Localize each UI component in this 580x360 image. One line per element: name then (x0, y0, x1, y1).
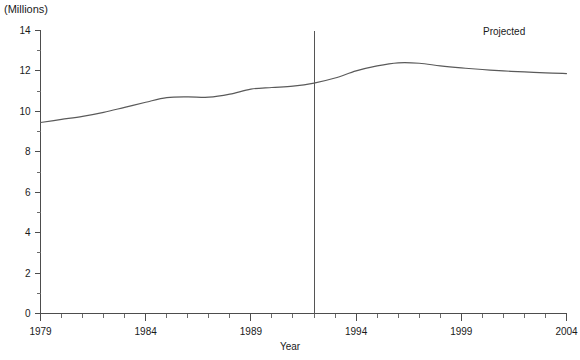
chart-figure: (Millions) Projected 0246810121419791984… (0, 0, 580, 360)
x-tick-label: 1999 (450, 326, 473, 337)
y-tick-label: 2 (25, 268, 31, 279)
x-axis-title: Year (0, 341, 580, 352)
y-tick-label: 8 (25, 146, 31, 157)
truncated-chart-title (40, 0, 540, 3)
line-chart-plot: 02468101214197919841989199419992004 (0, 0, 580, 360)
x-tick-label: 1984 (135, 326, 158, 337)
x-tick-label: 1994 (345, 326, 368, 337)
x-tick-label: 1989 (240, 326, 263, 337)
y-tick-label: 6 (25, 187, 31, 198)
y-tick-label: 4 (25, 227, 31, 238)
y-tick-label: 12 (19, 65, 31, 76)
y-axis-units-label: (Millions) (4, 3, 48, 15)
x-tick-label: 2004 (555, 326, 578, 337)
y-tick-label: 0 (25, 308, 31, 319)
data-series-line (41, 63, 567, 123)
x-tick-label: 1979 (29, 326, 52, 337)
projected-annotation: Projected (483, 26, 525, 37)
y-tick-label: 10 (19, 106, 31, 117)
y-tick-label: 14 (19, 25, 31, 36)
